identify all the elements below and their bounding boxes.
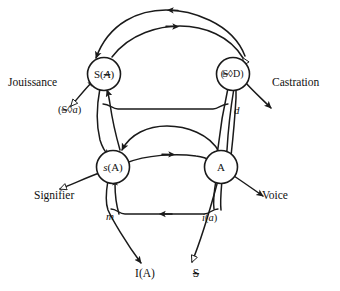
- castration-vector: [246, 83, 271, 108]
- label-desire-d: d: [234, 104, 240, 116]
- fantasy-vector: [107, 90, 120, 150]
- svg-text:S◊D): S◊D): [222, 68, 243, 80]
- label-ego-ideal: I(A): [135, 267, 155, 280]
- node-barred-S-lozenge-D[interactable]: S◊D) (: [217, 58, 250, 91]
- label-message-m: m: [106, 210, 114, 222]
- svg-text:s(A): s(A): [103, 161, 123, 174]
- label-barred-subject: S: [193, 267, 199, 279]
- graph-of-desire-diagram: S(A) S◊D) ( s(A) A Jouissance Castration…: [0, 0, 340, 291]
- svg-text:i(a): i(a): [202, 212, 218, 224]
- signifier-vector: [60, 172, 102, 189]
- graph-svg: S(A) S◊D) ( s(A) A Jouissance Castration…: [0, 0, 340, 291]
- retroaction-ascent: [115, 180, 119, 214]
- lower-upper-arc: [122, 126, 219, 152]
- upper-horizontal-connector: [103, 104, 228, 109]
- upper-left-descent: [97, 88, 109, 156]
- node-big-A[interactable]: A: [205, 151, 238, 184]
- node-s-of-A[interactable]: s(A): [97, 151, 130, 184]
- node-s-barred-A[interactable]: S(A): [88, 58, 121, 91]
- label-voice: Voice: [262, 189, 288, 201]
- upper-inner-arc: [112, 26, 243, 58]
- label-jouissance: Jouissance: [8, 76, 57, 88]
- label-signifier: Signifier: [34, 189, 74, 202]
- label-imaginary-i-a: i(a): [202, 212, 218, 224]
- svg-text:S: S: [193, 267, 199, 279]
- svg-text:S(A): S(A): [94, 68, 115, 81]
- svg-text:(S◊a): (S◊a): [58, 104, 82, 116]
- lower-inner-arc: [126, 154, 211, 163]
- upper-outer-arc: [96, 10, 245, 58]
- voice-vector: [234, 176, 263, 196]
- lower-right-descent: [214, 180, 222, 210]
- svg-text:A: A: [217, 161, 225, 173]
- label-fantasy-matheme: (S◊a): [58, 104, 82, 116]
- label-castration: Castration: [272, 76, 320, 88]
- jouissance-vector: [71, 81, 93, 106]
